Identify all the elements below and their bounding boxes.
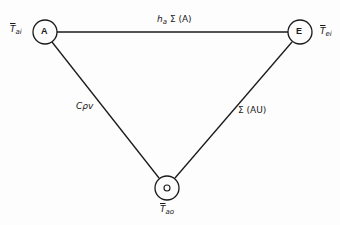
temp-label-ai: Tai: [10, 24, 22, 36]
node-a-label: A: [41, 26, 48, 36]
edge-label-a-e: ha Σ (A): [157, 14, 192, 26]
network-diagram: [0, 0, 340, 225]
edge-label-a-o: Cρv: [76, 101, 93, 111]
temp-label-ei: Tei: [320, 26, 332, 38]
node-o: [155, 176, 179, 200]
edge-label-e-o: Σ (AU): [238, 105, 266, 115]
temp-label-ao: Tao: [160, 204, 174, 216]
edge-e-o: [175, 42, 292, 178]
node-e-label: E: [296, 26, 302, 36]
edge-a-o: [52, 42, 159, 178]
